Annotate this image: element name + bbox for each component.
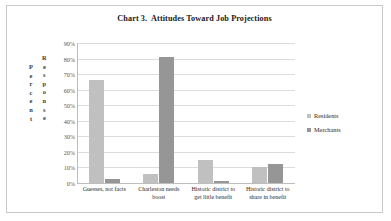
x-axis-category-label: Historic district toshare in benefit [237,186,300,201]
bar-merchants[interactable] [214,181,229,183]
y-axis-tick-labels: 90%80%70%60%50%40%30%20%10%0% [51,39,75,187]
legend-item-merchants[interactable]: Merchants [307,126,341,133]
plot-area [77,43,295,183]
y-axis-title-response-letter: o [43,88,46,97]
y-axis-title-percent-letter: t [30,115,32,124]
x-axis-category-label: Historic district toget little benefit [182,186,245,201]
y-axis-title-response-letter: e [43,114,46,123]
bar-residents[interactable] [89,80,104,183]
x-axis-category-label-line: Historic district to [182,186,245,194]
bar-merchants[interactable] [159,57,174,183]
y-axis-tick-label: 30% [64,133,75,140]
legend-swatch-icon [307,128,311,132]
y-axis-tick-label: 20% [64,148,75,155]
x-axis-category-label-line: Historic district to [237,186,300,194]
y-axis-tick-label: 80% [64,55,75,62]
bar-group [241,43,296,183]
x-axis-category-label-line: get little benefit [182,194,245,202]
x-axis-category-label-line: boost [128,194,191,202]
bar-residents[interactable] [143,174,158,183]
gridline [77,183,295,184]
y-axis-title-response: Response [42,54,47,123]
x-axis-category-label: Charleston needsboost [128,186,191,201]
bar-group [77,43,132,183]
x-axis-category-label: Guesses, not facts [73,186,136,194]
y-axis-title-percent-letter: r [30,80,33,89]
x-axis-category-label-line: Guesses, not facts [73,186,136,194]
y-axis-title-response-letter: n [43,97,47,106]
y-axis-title-percent-letter: P [29,63,33,72]
y-axis-tick-label: 70% [64,71,75,78]
y-axis-title-percent-letter: n [29,106,33,115]
y-axis-title-response-letter: s [43,71,46,80]
legend-label: Merchants [314,126,341,133]
bar-group [186,43,241,183]
x-axis-category-label-line: Charleston needs [128,186,191,194]
y-axis-tick-label: 60% [64,86,75,93]
y-axis-tick-label: 50% [64,102,75,109]
y-axis-tick-label: 10% [64,164,75,171]
y-axis-title-response-letter: e [43,63,46,72]
bar-series-container [77,43,295,183]
bar-merchants[interactable] [268,164,283,183]
bar-residents[interactable] [252,167,267,183]
y-axis-title-response-letter: p [43,80,47,89]
chart-legend: ResidentsMerchants [307,112,341,133]
chart-frame: Chart 3. Attitudes Toward Job Projection… [6,5,383,213]
y-axis-title-response-letter: s [43,106,46,115]
x-axis-category-label-line: share in benefit [237,194,300,202]
y-axis-tick-label: 90% [64,40,75,47]
y-axis-tick-label: 40% [64,117,75,124]
x-axis-category-labels: Guesses, not factsCharleston needsboostH… [77,186,295,214]
bar-residents[interactable] [198,160,213,183]
bar-merchants[interactable] [105,179,120,183]
legend-label: Residents [314,112,339,119]
bar-group [132,43,187,183]
y-axis-title-percent-letter: e [30,97,33,106]
legend-swatch-icon [307,114,311,118]
chart-title: Chart 3. Attitudes Toward Job Projection… [7,14,382,23]
y-axis-title-percent: Percent [29,63,33,123]
legend-item-residents[interactable]: Residents [307,112,341,119]
y-axis-title-response-letter: R [42,54,47,63]
y-axis-title-percent-letter: c [30,89,33,98]
y-axis-title-percent-letter: e [30,72,33,81]
